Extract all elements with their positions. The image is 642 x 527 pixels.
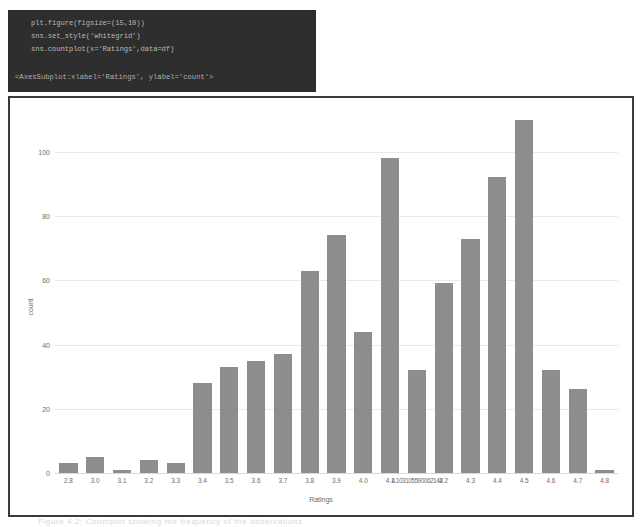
bar[interactable] [140,460,158,473]
bar-slot[interactable]: 3.7 [269,110,296,473]
x-axis-tick-label: 3.7 [278,477,287,484]
x-axis-tick-label: 4.7 [573,477,582,484]
x-axis-tick-label: 4.0 [359,477,368,484]
x-axis-tick-label: 4.103105590062142 [391,477,442,484]
bar-slot[interactable]: 4.4 [484,110,511,473]
y-axis-label: count [27,298,34,315]
x-axis-tick-label: 4.2 [439,477,448,484]
y-axis-tick-label: 80 [42,213,50,220]
page-caption: Figure 4.2: Countplot showing the freque… [38,517,303,526]
bar[interactable] [381,158,399,473]
figure-panel: count 020406080100 2.83.03.13.23.33.43.5… [8,96,634,517]
bar[interactable] [354,332,372,473]
bar[interactable] [86,457,104,473]
notebook-output-repr: <AxesSubplot:xlabel='Ratings', ylabel='c… [15,73,213,81]
bar-slot[interactable]: 3.4 [189,110,216,473]
bar-slot[interactable]: 3.3 [162,110,189,473]
bar-slot[interactable]: 3.9 [323,110,350,473]
y-axis-tick-label: 60 [42,277,50,284]
bar[interactable] [193,383,211,473]
bar[interactable] [515,120,533,473]
bar[interactable] [569,389,587,473]
bar-slot[interactable]: 4.6 [538,110,565,473]
code-line-set-style: sns.set_style('whitegrid') [31,32,141,40]
bar[interactable] [59,463,77,473]
screenshot-root: plt.figure(figsize=(15,10)) sns.set_styl… [0,0,642,527]
x-axis-tick-label: 4.8 [600,477,609,484]
x-axis-tick-label: 3.0 [91,477,100,484]
plot-area: 020406080100 2.83.03.13.23.33.43.53.63.7… [55,110,618,473]
x-axis-tick-label: 3.3 [171,477,180,484]
x-axis-tick-label: 3.1 [118,477,127,484]
bar[interactable] [274,354,292,473]
bar-series: 2.83.03.13.23.33.43.53.63.73.83.94.04.14… [55,110,618,473]
bar[interactable] [408,370,426,473]
y-axis-tick-label: 20 [42,405,50,412]
bar-slot[interactable]: 4.7 [564,110,591,473]
bar[interactable] [595,470,613,473]
y-axis-tick-label: 40 [42,341,50,348]
bar-slot[interactable]: 4.8 [591,110,618,473]
bar-slot[interactable]: 4.103105590062142 [404,110,431,473]
bar[interactable] [461,239,479,474]
notebook-code-cell[interactable]: plt.figure(figsize=(15,10)) sns.set_styl… [8,10,316,92]
x-axis-tick-label: 4.3 [466,477,475,484]
bar-slot[interactable]: 2.8 [55,110,82,473]
code-line-figure: plt.figure(figsize=(15,10)) [31,19,145,27]
gridline: 0 [55,473,618,474]
x-axis-tick-label: 4.5 [520,477,529,484]
bar-slot[interactable]: 4.5 [511,110,538,473]
x-axis-tick-label: 3.4 [198,477,207,484]
bar[interactable] [301,271,319,473]
bar[interactable] [113,470,131,473]
bar[interactable] [220,367,238,473]
bar[interactable] [167,463,185,473]
x-axis-tick-label: 3.5 [225,477,234,484]
bar-slot[interactable]: 3.6 [243,110,270,473]
y-axis-tick-label: 100 [38,148,50,155]
x-axis-tick-label: 3.8 [305,477,314,484]
x-axis-tick-label: 2.8 [64,477,73,484]
x-axis-tick-label: 3.6 [252,477,261,484]
bar[interactable] [327,235,345,473]
bar-slot[interactable]: 4.1 [377,110,404,473]
bar-slot[interactable]: 3.0 [82,110,109,473]
code-line-countplot: sns.countplot(x='Ratings',data=df) [31,45,174,53]
bar-slot[interactable]: 3.1 [109,110,136,473]
bar[interactable] [435,283,453,473]
bar-slot[interactable]: 4.0 [350,110,377,473]
bar-slot[interactable]: 4.3 [457,110,484,473]
x-axis-tick-label: 3.9 [332,477,341,484]
bar-slot[interactable]: 3.5 [216,110,243,473]
y-axis-tick-label: 0 [46,470,50,477]
bar[interactable] [488,177,506,473]
x-axis-tick-label: 4.6 [547,477,556,484]
bar[interactable] [247,361,265,473]
x-axis-tick-label: 3.2 [144,477,153,484]
bar[interactable] [542,370,560,473]
bar-slot[interactable]: 3.2 [135,110,162,473]
bar-slot[interactable]: 4.2 [430,110,457,473]
bar-slot[interactable]: 3.8 [296,110,323,473]
x-axis-tick-label: 4.4 [493,477,502,484]
x-axis-label: Ratings [10,496,632,503]
